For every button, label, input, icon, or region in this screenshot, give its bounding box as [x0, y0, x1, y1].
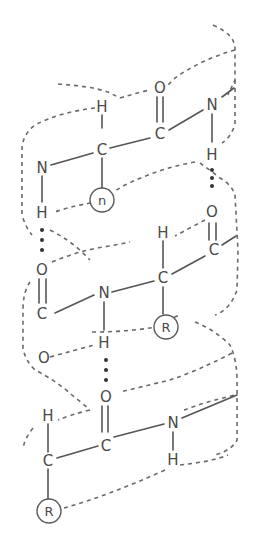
atom-label: C — [209, 241, 219, 259]
atom-label: O — [154, 79, 166, 97]
atom-label: O — [100, 388, 112, 406]
atom-label: O — [38, 349, 50, 367]
atom-label: H — [42, 407, 53, 425]
atom-label: H — [36, 204, 47, 222]
atom-label: N — [206, 96, 217, 114]
atom-label: O — [206, 203, 218, 221]
atom-label: O — [36, 261, 48, 279]
atom-label: H — [96, 98, 107, 116]
atom-label: H — [98, 334, 109, 352]
atom-label: H — [206, 146, 217, 164]
atom-label: N — [167, 414, 178, 432]
atom-label: H — [167, 451, 178, 469]
atom-label: C — [155, 125, 165, 143]
atom-label: C — [37, 305, 47, 323]
atom-label: C — [43, 452, 53, 470]
atom-label: N — [36, 159, 47, 177]
alpha-helix-diagram: H O N C C N H H n O C H C O C N H R O O … — [0, 0, 257, 555]
atom-label: H — [157, 224, 168, 242]
atom-label: N — [98, 284, 109, 302]
atom-label: C — [158, 269, 168, 287]
hydrogen-bonds — [40, 168, 214, 382]
r-label: R — [44, 504, 53, 519]
atom-label: C — [101, 437, 111, 455]
r-label: R — [161, 320, 170, 335]
atom-labels: H O N C C N H H n O C H C O C N H R O O … — [36, 79, 219, 519]
r-label: n — [98, 193, 106, 208]
atom-label: C — [97, 141, 107, 159]
